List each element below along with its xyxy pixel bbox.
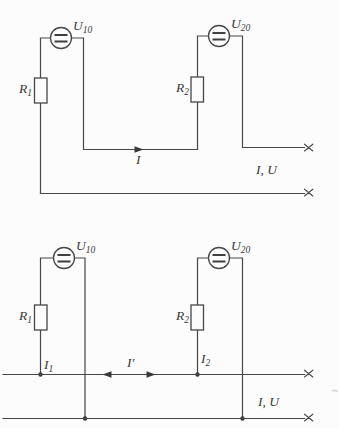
- bottom-circuit: U10 U20 R1 R2 I1 I2 I′ I, U: [3, 238, 338, 421]
- resistor-r1-icon: [35, 78, 48, 103]
- current-arrow-right-icon: [147, 371, 156, 378]
- voltage-source-u10-icon: [51, 28, 72, 49]
- voltage-source-u20-icon: [209, 248, 230, 269]
- wire: [75, 258, 86, 419]
- top-circuit: U10 U20 R1 R2 I I, U: [18, 16, 313, 196]
- scan-artifact: [332, 390, 338, 391]
- wire: [41, 38, 51, 194]
- current-label-i-prime: I′: [126, 355, 135, 370]
- terminal-cross-icon: [305, 414, 313, 421]
- terminal-cross-icon: [305, 144, 313, 151]
- resistor-label-r1: R1: [18, 81, 32, 98]
- source-label-u20: U20: [231, 238, 251, 255]
- voltage-source-u20-icon: [209, 26, 230, 47]
- circuit-diagram-page: U10 U20 R1 R2 I I, U: [0, 0, 339, 428]
- current-label-i1: I1: [43, 357, 53, 374]
- current-arrow-left-icon: [103, 371, 112, 378]
- source-label-u20: U20: [231, 16, 251, 33]
- terminal-cross-icon: [305, 370, 313, 377]
- current-label-i: I: [135, 152, 142, 167]
- resistor-label-r2: R2: [175, 308, 189, 325]
- circuit-diagram-svg: U10 U20 R1 R2 I I, U: [0, 0, 339, 428]
- terminal-label-iu: I, U: [255, 162, 278, 177]
- voltage-source-u10-icon: [54, 248, 75, 269]
- terminal-label-iu: I, U: [257, 394, 280, 409]
- resistor-label-r1: R1: [18, 308, 32, 325]
- source-label-u10: U10: [76, 238, 96, 255]
- resistor-r2-icon: [191, 305, 204, 330]
- current-label-i2: I2: [200, 351, 211, 368]
- wire: [230, 258, 243, 419]
- resistor-r2-icon: [191, 77, 204, 102]
- wire: [230, 36, 305, 148]
- source-label-u10: U10: [73, 18, 93, 35]
- terminal-cross-icon: [305, 189, 313, 196]
- resistor-label-r2: R2: [175, 80, 189, 97]
- resistor-r1-icon: [35, 305, 48, 330]
